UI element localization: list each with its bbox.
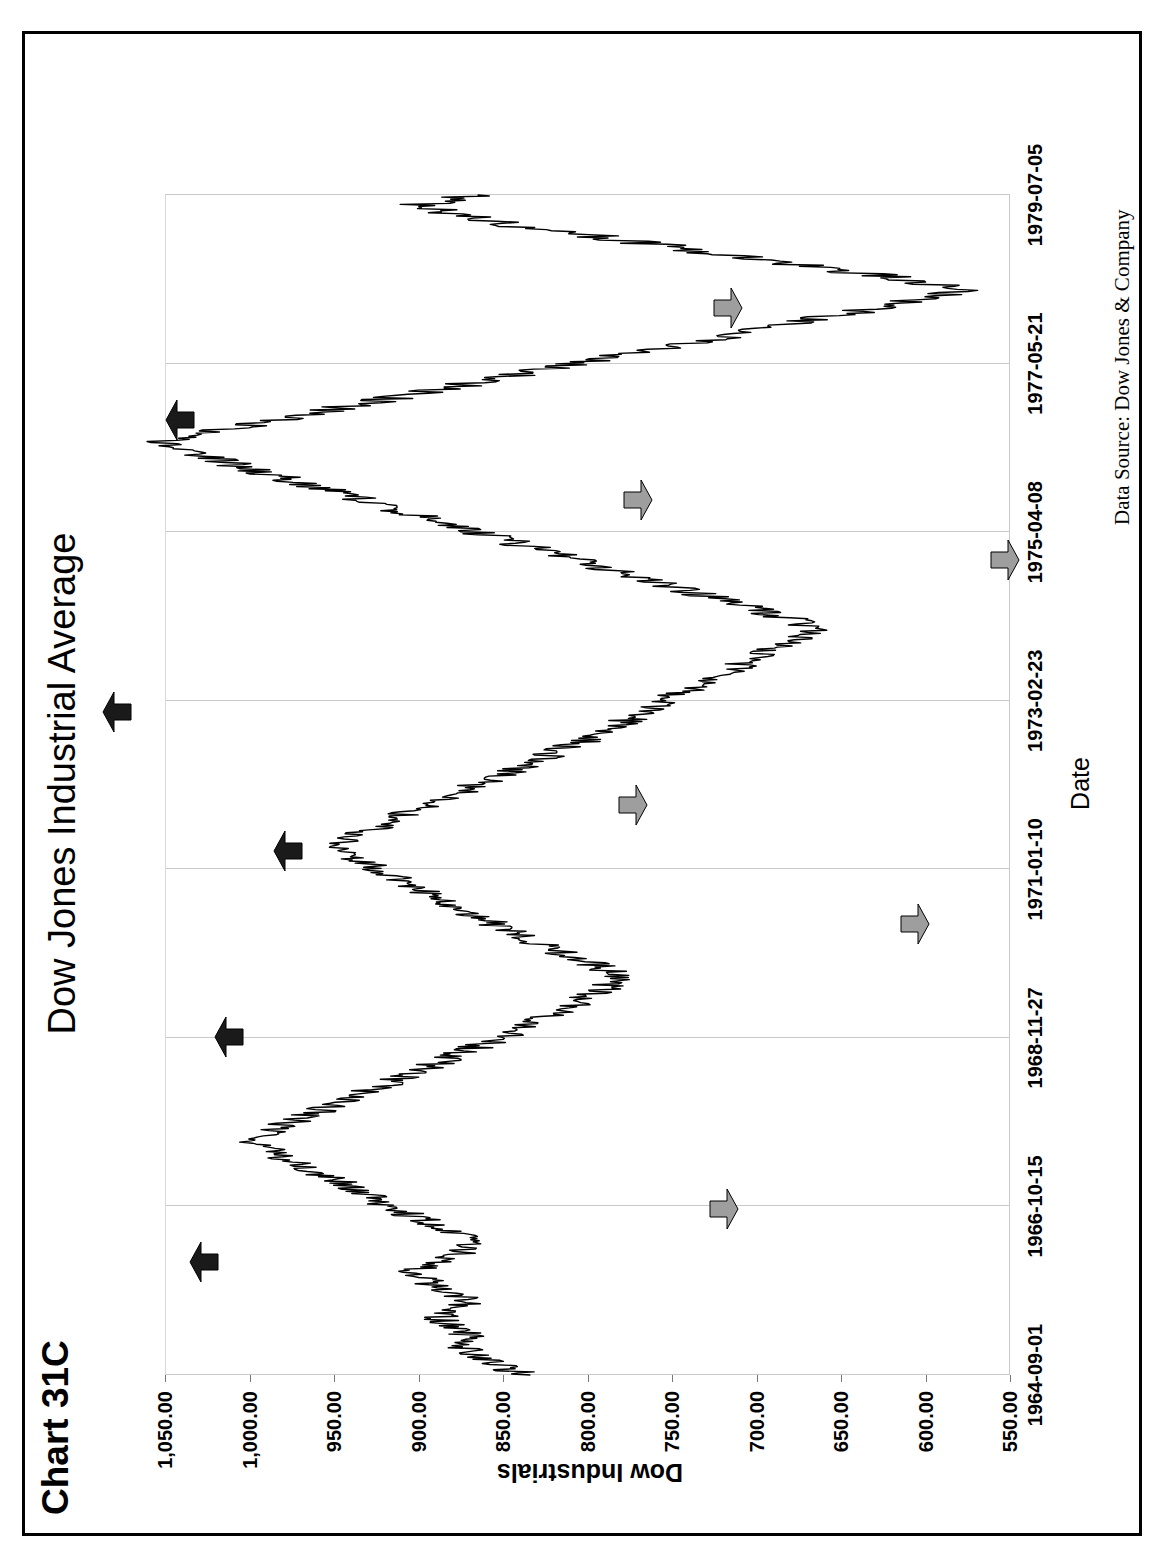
- y-tick-label: 750.00: [661, 1391, 684, 1452]
- y-tick-mark: [419, 1375, 420, 1382]
- y-tick-mark: [334, 1375, 335, 1382]
- y-tick-label: 600.00: [914, 1391, 937, 1452]
- y-tick-mark: [926, 1375, 927, 1382]
- series-line-dow-industrials: [165, 195, 1010, 1375]
- x-tick-label: 1964-09-01: [1024, 1324, 1047, 1426]
- arrow-up-icon: [165, 392, 195, 448]
- y-tick-label: 550.00: [999, 1391, 1022, 1452]
- annotation-arrow-trough-1970: [900, 896, 934, 952]
- x-tick-label: 1975-04-08: [1024, 481, 1047, 583]
- arrow-down-icon: [618, 777, 648, 833]
- data-source-note: Data Source: Dow Jones & Company: [1110, 209, 1135, 525]
- chart-frame: Chart 31C Dow Jones Industrial Average 1…: [22, 31, 1142, 1536]
- y-tick-label: 1,050.00: [154, 1391, 177, 1469]
- rotated-chart-canvas: Chart 31C Dow Jones Industrial Average 1…: [0, 0, 1170, 1548]
- x-tick-label: 1966-10-15: [1024, 1155, 1047, 1257]
- annotation-arrow-trough-1974: [990, 532, 1024, 588]
- y-tick-label: 950.00: [323, 1391, 346, 1452]
- arrow-down-icon: [713, 280, 743, 336]
- y-tick-label: 900.00: [407, 1391, 430, 1452]
- arrow-up-icon: [189, 1234, 219, 1290]
- y-tick-mark: [757, 1375, 758, 1382]
- x-tick-label: 1971-01-10: [1024, 818, 1047, 920]
- y-tick-label: 650.00: [830, 1391, 853, 1452]
- y-axis-title: Dow Industrials: [496, 1458, 682, 1487]
- arrow-up-icon: [214, 1009, 244, 1065]
- annotation-arrow-trough-1966: [709, 1181, 743, 1237]
- y-tick-mark: [841, 1375, 842, 1382]
- arrow-up-icon: [273, 823, 303, 879]
- y-tick-mark: [165, 1375, 166, 1382]
- arrow-down-icon: [990, 532, 1020, 588]
- x-tick-label: 1973-02-23: [1024, 650, 1047, 752]
- arrow-down-icon: [623, 472, 653, 528]
- annotation-arrow-trough-1978: [713, 280, 747, 336]
- y-tick-mark: [672, 1375, 673, 1382]
- x-axis-title: Date: [1066, 34, 1095, 1533]
- annotation-arrow-trough-1971: [618, 777, 652, 833]
- x-tick-label: 1968-11-27: [1024, 987, 1047, 1088]
- arrow-down-icon: [900, 896, 930, 952]
- x-tick-label: 1977-05-21: [1024, 312, 1047, 414]
- y-tick-mark: [1010, 1375, 1011, 1382]
- annotation-arrow-peak-1966: [189, 1234, 223, 1290]
- chart-title: Dow Jones Industrial Average: [41, 34, 84, 1533]
- annotation-arrow-trough-1975: [623, 472, 657, 528]
- y-tick-label: 800.00: [576, 1391, 599, 1452]
- y-tick-mark: [503, 1375, 504, 1382]
- arrow-down-icon: [709, 1181, 739, 1237]
- annotation-arrow-peak-1968: [214, 1009, 248, 1065]
- arrow-up-icon: [102, 684, 132, 740]
- plot-area: [165, 195, 1010, 1375]
- annotation-arrow-peak-1973: [102, 684, 136, 740]
- y-tick-label: 850.00: [492, 1391, 515, 1452]
- y-tick-label: 1,000.00: [238, 1391, 261, 1469]
- x-tick-label: 1979-07-05: [1024, 144, 1047, 246]
- y-tick-label: 700.00: [745, 1391, 768, 1452]
- y-tick-mark: [250, 1375, 251, 1382]
- y-tick-mark: [588, 1375, 589, 1382]
- annotation-arrow-peak-1971: [273, 823, 307, 879]
- annotation-arrow-peak-1976: [165, 392, 199, 448]
